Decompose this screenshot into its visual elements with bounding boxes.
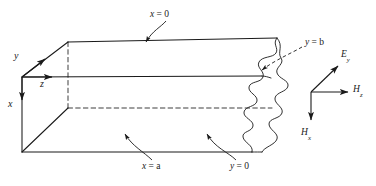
label-E-y: Ey: [341, 50, 350, 60]
waveguide-diagram: [0, 0, 376, 186]
axis-y-arrow: [22, 59, 45, 77]
label-x-equals-0: x = 0: [150, 10, 169, 20]
waveguide-body: [22, 38, 288, 152]
label-H-z: Hz: [353, 85, 363, 95]
top-back-edge: [68, 38, 277, 42]
label-y-equals-b: y = b: [305, 38, 324, 48]
vector-E-y: [311, 66, 338, 92]
label-x-equals-a: x = a: [142, 162, 161, 172]
torn-edge-outer: [262, 38, 288, 152]
leader-y-equals-0: [207, 134, 236, 160]
bottom-left-slant-edge: [22, 108, 68, 152]
field-triad-arrows: [311, 66, 348, 120]
label-y-equals-0: y = 0: [230, 162, 249, 172]
leader-x-equals-a: [125, 134, 152, 160]
leader-y-equals-b: [262, 47, 302, 70]
hidden-edges: [68, 42, 272, 108]
axis-label-z: z: [40, 79, 44, 89]
top-front-edge: [22, 76, 262, 77]
torn-edge: [243, 38, 277, 152]
label-H-x: Hx: [301, 128, 311, 138]
axis-label-x: x: [8, 99, 12, 109]
leader-x-equals-0: [146, 21, 166, 42]
axis-label-y: y: [14, 51, 18, 61]
coordinate-axes: [22, 59, 52, 100]
